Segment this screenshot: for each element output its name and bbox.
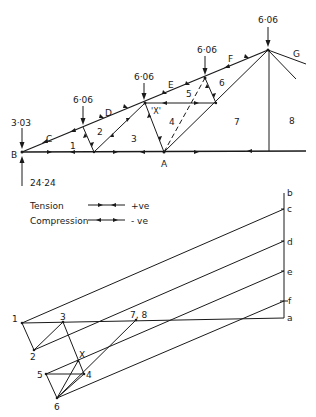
- web-member-5-6: [205, 78, 216, 103]
- node-B: [21, 151, 24, 154]
- legend-tension-label: Tension: [29, 201, 64, 211]
- space-label-G: G: [293, 49, 300, 59]
- load-3-arrow: 6·06: [197, 45, 217, 75]
- node-apex: [267, 49, 270, 52]
- line-2-3: [34, 322, 63, 350]
- label-f: f: [288, 296, 292, 306]
- arrow-icon: [113, 150, 118, 154]
- rafter-right-upper: [268, 50, 306, 64]
- load-end-label: 3·03: [11, 118, 31, 128]
- load-2-label: 6·06: [134, 72, 154, 82]
- label-point-5: 5: [37, 370, 43, 380]
- point-5: [45, 373, 48, 376]
- arrow-left-icon: [96, 218, 101, 222]
- label-point-6: 6: [54, 402, 60, 412]
- load-end-arrow: 3·03: [11, 118, 31, 149]
- truss-space-diagram: 3·03 6·06 6·06 6·06 6·06 24·24: [11, 15, 306, 188]
- node-label-A: A: [161, 159, 168, 169]
- arrow-icon: [99, 114, 104, 118]
- load-apex-arrow: 6·06: [258, 15, 278, 47]
- line-f-6: [57, 301, 284, 398]
- node-label-B: B: [11, 150, 17, 160]
- space-label-7: 7: [234, 117, 240, 127]
- space-label-6: 6: [219, 78, 225, 88]
- web-member-4-7: [164, 50, 268, 152]
- point-1: [21, 322, 24, 325]
- line-6-7: [57, 320, 136, 398]
- arrow-icon: [123, 104, 128, 108]
- top-chord: [22, 50, 268, 152]
- arrow-icon: [140, 150, 145, 154]
- arrow-icon: [224, 64, 230, 68]
- space-label-8: 8: [289, 116, 295, 126]
- arrow-left-icon: [111, 203, 116, 207]
- label-point-3: 3: [60, 312, 66, 322]
- load-2-arrow: 6·06: [134, 72, 154, 100]
- reaction-arrow: 24·24: [20, 156, 57, 188]
- legend-compression-label: Compression: [30, 216, 88, 226]
- space-label-1: 1: [70, 141, 76, 151]
- node-bottom-1: [93, 151, 95, 153]
- label-point-1: 1: [12, 314, 18, 324]
- load-3-label: 6·06: [197, 45, 217, 55]
- label-b: b: [287, 188, 293, 198]
- label-c: c: [287, 204, 292, 214]
- space-label-5: 5: [186, 89, 192, 99]
- load-1-label: 6·06: [73, 95, 93, 105]
- point-6: [56, 397, 59, 400]
- node-A: [163, 151, 166, 154]
- web-member-1-2: [83, 127, 94, 152]
- arrow-icon: [247, 149, 252, 153]
- node-top-3: [204, 77, 207, 80]
- reaction-label: 24·24: [30, 178, 56, 188]
- label-point-X: X: [79, 350, 85, 360]
- point-2: [33, 349, 36, 352]
- rafter-right-lower: [268, 50, 296, 79]
- point-4: [83, 373, 86, 376]
- line-d-2: [34, 241, 284, 350]
- space-label-2: 2: [97, 127, 103, 137]
- legend-tension-sign: +ve: [131, 201, 150, 211]
- space-label-3: 3: [131, 134, 137, 144]
- arrow-icon: [126, 118, 130, 122]
- label-point-4: 4: [86, 370, 92, 380]
- arrow-icon: [47, 150, 52, 154]
- space-label-C: C: [46, 134, 52, 144]
- label-a: a: [287, 313, 293, 323]
- arrow-right-icon: [98, 203, 103, 207]
- arrow-icon: [194, 101, 199, 105]
- node-mid: [215, 102, 217, 104]
- load-1-arrow: 6·06: [73, 95, 93, 125]
- load-apex-label: 6·06: [258, 15, 278, 25]
- label-e: e: [287, 267, 293, 277]
- space-label-E: E: [168, 80, 174, 90]
- label-point-2: 2: [30, 352, 36, 362]
- node-top-2: [144, 102, 147, 105]
- line-c-1: [22, 209, 284, 323]
- space-label-D: D: [105, 108, 112, 118]
- arrow-icon: [244, 54, 249, 58]
- point-X: [77, 360, 80, 363]
- legend: Tension +ve Compression - ve: [29, 201, 150, 226]
- space-label-F: F: [228, 54, 233, 64]
- line-1-2: [22, 323, 34, 350]
- arrow-icon: [194, 150, 199, 154]
- line-6-X: [57, 361, 78, 398]
- space-label-4: 4: [169, 117, 175, 127]
- space-label-X: 'X': [151, 107, 161, 116]
- roof-truss-figure: 3·03 6·06 6·06 6·06 6·06 24·24: [0, 0, 316, 417]
- arrow-icon: [70, 128, 76, 132]
- label-d: d: [287, 237, 293, 247]
- line-5-6: [46, 374, 57, 398]
- arrow-right-icon: [113, 218, 118, 222]
- label-point-7-8: 7, 8: [130, 310, 147, 320]
- arrow-icon: [162, 101, 167, 105]
- legend-compression-sign: - ve: [131, 216, 148, 226]
